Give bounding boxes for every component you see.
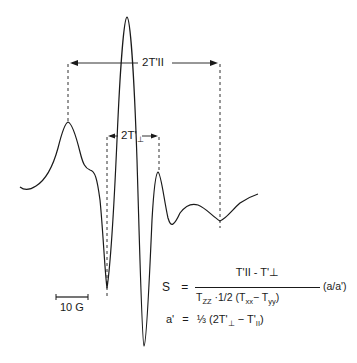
denom-minus: − T (253, 291, 268, 303)
iso-close: ) (260, 313, 264, 325)
equals-sign: = (182, 313, 188, 325)
s-symbol: S (162, 280, 170, 294)
order-parameter-denominator: TZZ ·1/2 (Txx− Tyy) (196, 291, 279, 306)
zz-sub: ZZ (202, 297, 211, 306)
a-prime: a' (166, 313, 174, 325)
order-parameter-lhs: S = (162, 280, 188, 294)
parallel-splitting-label: 2T'II (142, 56, 164, 68)
scale-bar-label: 10 G (60, 301, 84, 313)
arrowhead-right-icon (210, 60, 218, 66)
xx-sub: xx (245, 297, 253, 306)
iso-open: ⅓ (2T' (197, 313, 228, 325)
perp-sub: ⊥ (228, 319, 235, 328)
arrowhead-left-icon (108, 134, 115, 139)
yy-sub: yy (268, 297, 276, 306)
order-parameter-factor: (a/a') (323, 280, 347, 292)
iso-mid: − T' (238, 313, 256, 325)
isotropic-equation: a' = ⅓ (2T'⊥ − T'II) (166, 313, 264, 328)
perp-label-text: 2T' (121, 129, 137, 141)
arrowhead-left-icon (70, 60, 78, 66)
perp-symbol: ⊥ (137, 135, 144, 144)
equals-sign: = (181, 280, 188, 294)
order-parameter-numerator: T'II - T'⊥ (195, 266, 320, 279)
fraction-bar (195, 287, 320, 288)
epr-spectrum-diagram (0, 0, 357, 363)
denom-mid: ·1/2 (T (215, 291, 246, 303)
perpendicular-splitting-label: 2T'⊥ (121, 129, 144, 144)
arrowhead-right-icon (151, 134, 158, 139)
denom-close: ) (276, 291, 280, 303)
